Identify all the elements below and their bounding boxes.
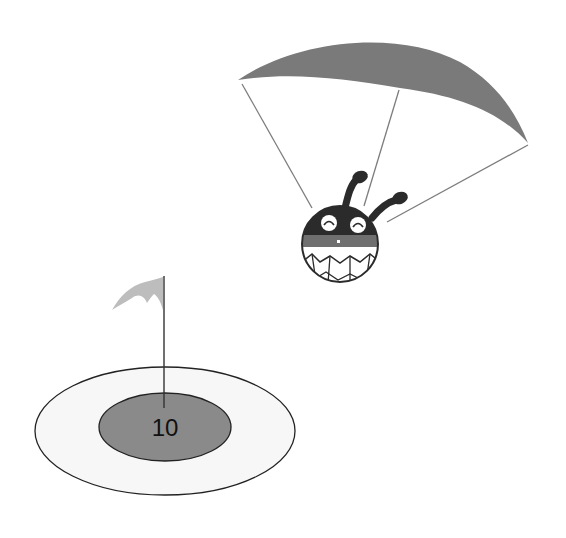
character xyxy=(300,169,410,287)
parachute-canopy xyxy=(238,42,528,143)
parachute-line-middle xyxy=(364,90,399,206)
flag-cloth xyxy=(112,277,163,310)
eye-left xyxy=(321,215,337,231)
nose xyxy=(337,240,340,243)
landing-target: 10 xyxy=(35,367,295,495)
parachute-line-left xyxy=(242,84,312,208)
eye-right xyxy=(350,217,366,233)
scene: 10 xyxy=(0,0,566,538)
parachute xyxy=(238,42,528,222)
parachute-line-right xyxy=(387,145,528,222)
antenna-right xyxy=(372,200,396,218)
target-score-label: 10 xyxy=(152,414,179,441)
character-band xyxy=(300,235,382,247)
